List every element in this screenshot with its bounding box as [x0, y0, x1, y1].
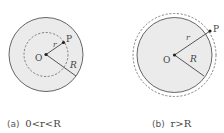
caption-a-tag: (a)	[7, 119, 20, 129]
figure-b: O P r R	[133, 14, 219, 97]
label-O-b: O	[163, 55, 170, 65]
label-R-a: R	[69, 60, 77, 70]
caption-a-math: 0<r<R	[25, 118, 60, 129]
center-dot-a	[44, 53, 47, 56]
caption-b-tag: (b)	[152, 119, 165, 129]
label-O-a: O	[35, 53, 42, 63]
label-P-a: P	[66, 34, 72, 44]
center-dot-b	[173, 53, 176, 56]
point-dot-a	[62, 41, 65, 44]
diagram-canvas: O P r R O P r R	[0, 0, 224, 133]
caption-b: (b) r>R	[152, 118, 191, 129]
caption-a: (a) 0<r<R	[7, 118, 61, 129]
point-dot-b	[208, 29, 211, 32]
label-r-a: r	[53, 40, 57, 49]
figure-a: O P r R	[9, 18, 83, 92]
caption-b-math: r>R	[170, 118, 191, 129]
label-R-b: R	[189, 54, 197, 64]
label-P-b: P	[213, 24, 219, 34]
